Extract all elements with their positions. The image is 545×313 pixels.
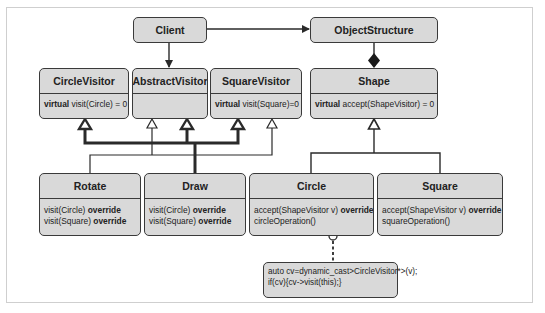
- inheritance-arrow-icon: [79, 119, 91, 129]
- composition-diamond-icon: [368, 53, 380, 68]
- class-name: Draw: [145, 174, 245, 199]
- class-name: AbstractVisitor: [133, 69, 207, 94]
- class-method: virtual accept(ShapeVisitor) = 0: [311, 94, 437, 112]
- class-methods: visit(Circle) override visit(Square) ove…: [40, 199, 140, 229]
- class-name: Shape: [311, 69, 437, 94]
- class-circle[interactable]: Circle accept(ShapeVisitor v) override c…: [249, 173, 374, 236]
- class-methods: accept(ShapeVisitor v) override squareOp…: [378, 199, 502, 229]
- class-squarevisitor[interactable]: SquareVisitor virtual visit(Square)=0: [210, 68, 302, 119]
- class-name: ObjectStructure: [311, 18, 437, 42]
- class-name: Rotate: [40, 174, 140, 199]
- inheritance-arrow-icon: [267, 119, 277, 128]
- note-line: auto cv=dynamic_cast>CircleVisitor*>(v);: [268, 266, 393, 277]
- class-objectstructure[interactable]: ObjectStructure: [310, 17, 438, 43]
- class-name: CircleVisitor: [40, 69, 128, 94]
- note-line: if(cv){cv->visit(this);}: [268, 277, 393, 288]
- class-methods: accept(ShapeVisitor v) override circleOp…: [250, 199, 373, 229]
- class-methods: visit(Circle) override visit(Square) ove…: [145, 199, 245, 229]
- class-method: virtual visit(Square)=0: [211, 94, 301, 112]
- class-abstractvisitor[interactable]: AbstractVisitor: [132, 68, 208, 119]
- class-name: Client: [134, 18, 206, 42]
- class-method: virtual visit(Circle) = 0: [40, 94, 128, 112]
- class-square[interactable]: Square accept(ShapeVisitor v) override s…: [377, 173, 503, 236]
- class-name: Square: [378, 174, 502, 199]
- class-rotate[interactable]: Rotate visit(Circle) override visit(Squa…: [39, 173, 141, 236]
- class-circlevisitor[interactable]: CircleVisitor virtual visit(Circle) = 0: [39, 68, 129, 119]
- code-note: auto cv=dynamic_cast>CircleVisitor*>(v);…: [263, 262, 398, 298]
- class-name: Circle: [250, 174, 373, 199]
- inheritance-arrow-icon: [369, 119, 380, 129]
- class-client[interactable]: Client: [133, 17, 207, 43]
- inheritance-arrow-icon: [147, 119, 157, 128]
- class-name: SquareVisitor: [211, 69, 301, 94]
- class-shape[interactable]: Shape virtual accept(ShapeVisitor) = 0: [310, 68, 438, 119]
- class-draw[interactable]: Draw visit(Circle) override visit(Square…: [144, 173, 246, 236]
- inheritance-arrow-icon: [181, 119, 193, 129]
- inheritance-arrow-icon: [232, 119, 244, 129]
